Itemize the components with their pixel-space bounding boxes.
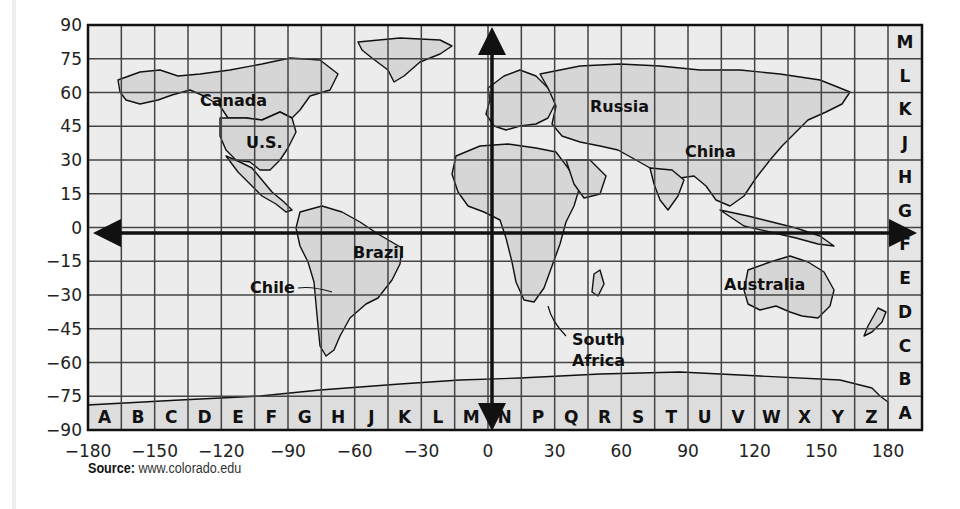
row-letter: K (898, 99, 912, 119)
longitude-tick-label: 150 (805, 441, 837, 461)
longitude-tick-label: 120 (738, 441, 770, 461)
column-letter: B (132, 407, 145, 427)
column-letter: L (433, 407, 444, 427)
latitude-tick-label: 75 (60, 49, 82, 69)
row-letter: J (901, 133, 908, 153)
column-letter: G (298, 407, 312, 427)
column-letter: W (762, 407, 781, 427)
column-letter: T (666, 407, 678, 427)
row-letter: G (898, 201, 912, 221)
column-letter: Q (564, 407, 578, 427)
row-letter: L (900, 66, 911, 86)
country-label: Canada (200, 91, 267, 110)
column-letter: Z (865, 407, 877, 427)
country-label: U.S. (246, 133, 283, 152)
latitude-tick-label: −60 (46, 353, 82, 373)
column-letter: A (98, 407, 112, 427)
row-letter: A (898, 403, 912, 423)
row-letter: M (897, 32, 914, 52)
latitude-tick-label: −75 (46, 386, 82, 406)
latitude-tick-label: 0 (71, 218, 82, 238)
column-letter: Y (831, 407, 845, 427)
longitude-tick-label: 180 (872, 441, 904, 461)
latitude-tick-label: −15 (46, 251, 82, 271)
column-letter: X (798, 407, 811, 427)
column-letter: E (232, 407, 244, 427)
column-letter: P (532, 407, 544, 427)
column-letter: H (331, 407, 345, 427)
longitude-tick-label: −30 (403, 441, 439, 461)
latitude-tick-label: 30 (60, 150, 82, 170)
latitude-tick-label: −30 (46, 285, 82, 305)
column-letter: C (165, 407, 177, 427)
latitude-tick-label: 60 (60, 83, 82, 103)
latitude-tick-label: 90 (60, 15, 82, 35)
longitude-tick-label: −90 (270, 441, 306, 461)
source-url: www.colorado.edu (138, 460, 241, 476)
source-label: Source: (88, 460, 135, 476)
longitude-tick-label: 60 (611, 441, 633, 461)
longitude-tick-label: 0 (483, 441, 494, 461)
country-label: Africa (572, 351, 625, 370)
country-label: China (685, 142, 736, 161)
latitude-labels: 9075604530150−15−30−45−60−75−90 (46, 15, 82, 440)
row-letter: H (898, 167, 912, 187)
column-letter: D (198, 407, 212, 427)
country-label: Brazil (353, 243, 404, 262)
country-label: Russia (590, 97, 649, 116)
longitude-tick-label: 30 (544, 441, 566, 461)
column-letter: K (398, 407, 412, 427)
row-letter: F (899, 234, 911, 254)
latitude-tick-label: −45 (46, 319, 82, 339)
longitude-tick-label: −120 (198, 441, 245, 461)
latitude-tick-label: −90 (46, 420, 82, 440)
latitude-tick-label: 45 (60, 116, 82, 136)
longitude-tick-label: 90 (677, 441, 699, 461)
column-letter: U (698, 407, 712, 427)
column-letter: S (632, 407, 644, 427)
source-credit: Source: www.colorado.edu (88, 460, 241, 476)
row-letter: C (899, 336, 911, 356)
column-letter: F (266, 407, 278, 427)
longitude-tick-label: −60 (337, 441, 373, 461)
column-letter: N (498, 407, 512, 427)
column-letter: M (463, 407, 480, 427)
column-letter: J (367, 407, 374, 427)
longitude-tick-label: −180 (65, 441, 112, 461)
row-letter: E (899, 268, 911, 288)
row-letter: B (899, 369, 912, 389)
column-letter: V (731, 407, 745, 427)
country-label: Chile (250, 278, 295, 297)
latitude-tick-label: 15 (60, 184, 82, 204)
country-label: Australia (724, 275, 805, 294)
longitude-tick-label: −150 (131, 441, 178, 461)
row-letter: D (898, 302, 912, 322)
column-letter: R (598, 407, 611, 427)
world-grid-map: 9075604530150−15−30−45−60−75−90 −180−150… (0, 0, 960, 509)
country-label: South (572, 330, 625, 349)
longitude-labels: −180−150−120−90−60−300306090120150180 (65, 441, 905, 461)
